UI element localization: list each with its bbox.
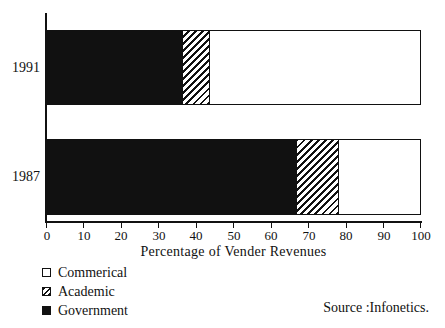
x-axis-label-50: 50 xyxy=(214,228,254,243)
chart-legend: Commerical Academic Government xyxy=(42,263,128,320)
bar-1991-segment-government xyxy=(47,31,182,104)
bar-1991-segment-commerical xyxy=(210,31,420,104)
x-axis-label-60: 60 xyxy=(251,228,291,243)
legend-item-government: Government xyxy=(42,301,128,320)
stacked-bar-chart: 0 10 20 30 40 50 60 70 80 90 100 1991 19… xyxy=(0,0,445,328)
x-axis-label-40: 40 xyxy=(176,228,216,243)
bar-1991-segment-academic xyxy=(182,31,210,104)
x-axis-title: Percentage of Vender Revenues xyxy=(45,244,422,260)
legend-label-commerical: Commerical xyxy=(58,265,127,281)
x-axis-label-10: 10 xyxy=(64,228,104,243)
bar-1987-segment-commerical xyxy=(339,140,420,214)
legend-label-government: Government xyxy=(58,303,128,319)
y-axis-label-1991: 1991 xyxy=(0,60,40,76)
x-axis-label-0: 0 xyxy=(27,228,67,243)
bar-1987-segment-academic xyxy=(296,140,339,214)
x-axis-label-80: 80 xyxy=(326,228,366,243)
source-note: Source :Infonetics. xyxy=(323,300,429,316)
bar-1987-segment-government xyxy=(47,140,296,214)
legend-item-commerical: Commerical xyxy=(42,263,128,282)
bar-1991 xyxy=(46,30,421,105)
legend-item-academic: Academic xyxy=(42,282,128,301)
bar-1987 xyxy=(46,139,421,215)
x-axis-label-100: 100 xyxy=(401,228,441,243)
x-axis-label-30: 30 xyxy=(139,228,179,243)
legend-swatch-government-icon xyxy=(42,306,51,315)
legend-label-academic: Academic xyxy=(58,284,115,300)
y-axis-label-1987: 1987 xyxy=(0,169,40,185)
legend-swatch-academic-icon xyxy=(42,287,51,296)
x-axis-label-70: 70 xyxy=(289,228,329,243)
x-axis-label-90: 90 xyxy=(364,228,404,243)
x-axis-label-20: 20 xyxy=(101,228,141,243)
legend-swatch-commerical-icon xyxy=(42,268,51,277)
